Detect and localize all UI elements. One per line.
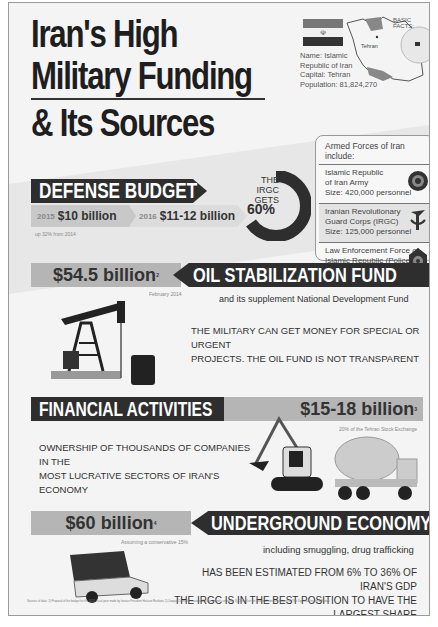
oil-fund-amount: $54.5 billion2 xyxy=(31,263,181,287)
title-divider xyxy=(31,98,265,100)
oil-fund-subtitle: and its supplement National Development … xyxy=(219,294,409,304)
army-emblem-icon xyxy=(407,169,429,193)
force-army: Islamic Republic of Iran Army Size: 420,… xyxy=(319,165,430,204)
underground-economy-banner: UNDERGROUND ECONOMY xyxy=(191,511,430,535)
infographic-page: Iran's High Military Funding & Its Sourc… xyxy=(8,2,430,616)
underground-amount: $60 billion4 xyxy=(31,511,191,535)
title-line-3: & Its Sources xyxy=(31,102,252,144)
iran-flag-icon: ☫ xyxy=(303,19,343,47)
irgc-percentage: 60% xyxy=(247,201,275,217)
budget-growth-note: up 32% from 2014 xyxy=(35,231,76,237)
map-city-label: Tehran xyxy=(361,43,378,49)
page-title: Iran's High Military Funding & Its Sourc… xyxy=(31,13,301,144)
pickup-truck-icon xyxy=(64,547,154,607)
irgc-emblem-icon xyxy=(407,208,429,232)
financial-description: OWNERSHIP OF THOUSANDS OF COMPANIES IN T… xyxy=(39,441,254,497)
basic-facts-label: BASIC FACTS: xyxy=(393,17,430,29)
title-line-1: Iran's High xyxy=(31,13,252,55)
construction-vehicles-icon xyxy=(249,415,419,510)
force-irgc: Iranian Revolutionary Guard Corps (IRGC)… xyxy=(319,204,430,243)
underground-description: HAS BEEN ESTIMATED FROM 6% TO 36% OF IRA… xyxy=(169,566,417,616)
armed-forces-box: Armed Forces of Iran include: Islamic Re… xyxy=(315,135,430,261)
budget-2015: 2015 $10 billion xyxy=(31,205,141,227)
armed-forces-heading: Armed Forces of Iran include: xyxy=(319,136,430,165)
oil-fund-description: THE MILITARY CAN GET MONEY FOR SPECIAL O… xyxy=(191,324,421,366)
underground-subtitle: including smuggling, drug trafficking xyxy=(263,544,414,555)
title-line-2: Military Funding xyxy=(31,55,252,97)
sources-footer: Sources of data: 1) Proposal of the budg… xyxy=(27,599,427,603)
oil-fund-banner: OIL STABILIZATION FUND xyxy=(173,263,430,287)
basic-facts: ☫ BASIC FACTS: Tehran Name: Islamic Repu… xyxy=(297,15,430,89)
country-info: Name: Islamic Republic of Iran Capital: … xyxy=(300,51,377,89)
defense-budget-banner: DEFENSE BUDGET1 xyxy=(31,179,207,203)
underground-note: Assuming a conservative 15% xyxy=(121,539,188,545)
financial-activities-banner: FINANCIAL ACTIVITIES xyxy=(31,397,239,421)
oil-pump-icon xyxy=(39,293,159,388)
budget-2016: 2016 $11-12 billion xyxy=(129,205,247,227)
